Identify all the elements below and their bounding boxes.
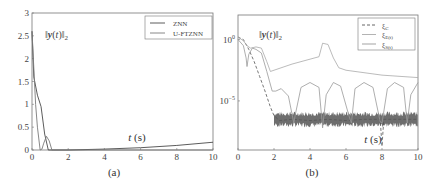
- y-tick-label: 1: [25, 99, 30, 109]
- series-line-u-ftznn: [32, 31, 213, 150]
- y-tick-label: 0.5: [18, 122, 30, 132]
- norm-annotation: ‖y(t)‖2: [259, 29, 283, 42]
- y-tick-label: 0: [25, 145, 30, 155]
- norm-annotation: ‖y(t)‖2: [45, 29, 69, 42]
- x-tick-label: 10: [209, 152, 219, 162]
- x-axis-label: t (s): [128, 131, 146, 144]
- x-tick-label: 6: [344, 152, 349, 162]
- x-axis-label: t (s): [364, 133, 382, 146]
- x-tick-label: 4: [102, 152, 107, 162]
- y-tick-label: 2: [25, 54, 30, 64]
- x-tick-label: 0: [236, 152, 241, 162]
- caption-b: (b): [306, 166, 319, 179]
- chart-a-canvas: 024681000.511.522.53‖y(t)‖2t (s)ZNNU-FTZ…: [0, 0, 219, 184]
- x-tick-label: 4: [308, 152, 313, 162]
- x-tick-label: 8: [175, 152, 180, 162]
- legend-label: ZNN: [173, 20, 187, 28]
- x-tick-label: 2: [66, 152, 71, 162]
- chart-panel-b: 024681010010−5‖y(t)‖2t (s)ξCξE(t)ξS(t)(b…: [219, 0, 438, 184]
- chart-b-canvas: 024681010010−5‖y(t)‖2t (s)ξCξE(t)ξS(t)(b…: [219, 0, 438, 184]
- y-tick-label: 100: [223, 34, 235, 45]
- legend-label: U-FTZNN: [173, 30, 203, 38]
- y-tick-label: 1.5: [18, 77, 30, 87]
- x-tick-label: 8: [380, 152, 385, 162]
- x-tick-label: 0: [30, 152, 35, 162]
- x-tick-label: 6: [138, 152, 143, 162]
- y-tick-label: 3: [25, 8, 30, 18]
- x-tick-label: 2: [272, 152, 277, 162]
- y-tick-label: 10−5: [220, 95, 235, 106]
- x-tick-label: 10: [414, 152, 424, 162]
- caption-a: (a): [108, 166, 121, 179]
- y-tick-label: 2.5: [18, 31, 30, 41]
- series-line-znn: [32, 31, 213, 150]
- chart-panel-a: 024681000.511.522.53‖y(t)‖2t (s)ZNNU-FTZ…: [0, 0, 219, 184]
